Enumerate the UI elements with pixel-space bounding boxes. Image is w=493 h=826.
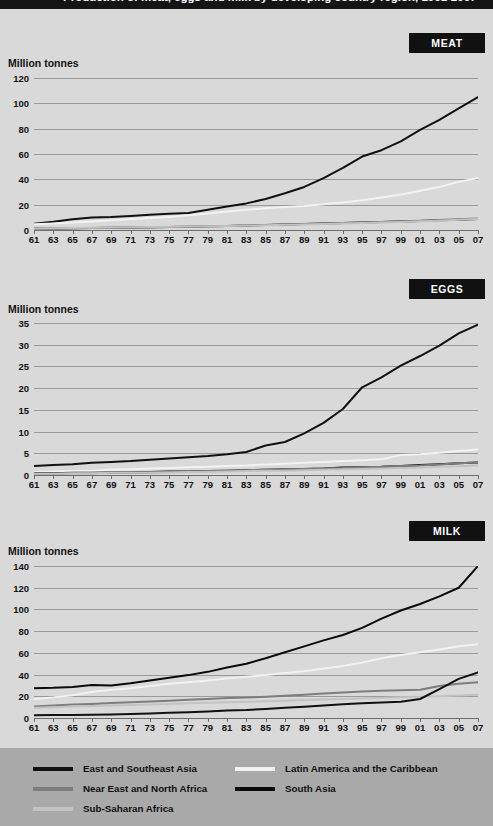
x-tick-label: 99 xyxy=(395,234,406,245)
x-tick-label: 77 xyxy=(183,722,194,733)
y-tick-label: 20 xyxy=(18,383,29,394)
x-tick-label: 81 xyxy=(222,234,233,245)
legend-swatch xyxy=(33,807,73,811)
x-tick-label: 89 xyxy=(299,722,310,733)
y-tick-label: 140 xyxy=(13,561,29,572)
legend-swatch xyxy=(33,767,73,771)
y-axis-title: Million tonnes xyxy=(8,545,79,557)
x-axis: 6163656769717375777981838587899193959799… xyxy=(34,718,478,736)
y-tick-label: 40 xyxy=(18,669,29,680)
panel-tag-meat: MEAT xyxy=(409,33,485,53)
series-line xyxy=(34,97,478,224)
x-tick-label: 77 xyxy=(183,479,194,490)
y-tick-label: 60 xyxy=(18,149,29,160)
series-line xyxy=(34,672,478,715)
legend-label: Near East and North Africa xyxy=(83,782,207,796)
x-tick-label: 87 xyxy=(280,722,291,733)
plot-inner: 0204060801001201406163656769717375777981… xyxy=(34,566,478,718)
y-tick-label: 100 xyxy=(13,604,29,615)
y-tick-label: 120 xyxy=(13,582,29,593)
x-tick-label: 99 xyxy=(395,722,406,733)
x-tick-label: 79 xyxy=(202,234,213,245)
chart-legend: East and Southeast AsiaNear East and Nor… xyxy=(0,748,493,826)
x-tick-label: 83 xyxy=(241,722,252,733)
x-tick-label: 69 xyxy=(106,722,117,733)
x-tick-label: 69 xyxy=(106,479,117,490)
x-tick-label: 81 xyxy=(222,479,233,490)
plot-inner: 0510152025303561636567697173757779818385… xyxy=(34,323,478,475)
x-tick-label: 69 xyxy=(106,234,117,245)
x-tick-label: 03 xyxy=(434,479,445,490)
figure-root: Production of meat, eggs and milk by dev… xyxy=(0,0,493,826)
x-tick-label: 01 xyxy=(415,479,426,490)
plot-area: 0204060801001206163656769717375777981838… xyxy=(34,78,478,230)
legend-label: East and Southeast Asia xyxy=(83,762,197,776)
x-tick-label: 85 xyxy=(260,234,271,245)
x-tick-label: 63 xyxy=(48,722,59,733)
y-tick-label: 20 xyxy=(18,199,29,210)
plot-area: 0204060801001201406163656769717375777981… xyxy=(34,566,478,718)
series-line xyxy=(34,325,478,466)
x-tick-label: 05 xyxy=(453,234,464,245)
x-tick-label: 91 xyxy=(318,722,329,733)
series-canvas xyxy=(34,78,478,230)
x-tick-label: 89 xyxy=(299,234,310,245)
x-tick-label: 83 xyxy=(241,234,252,245)
y-tick-label: 80 xyxy=(18,626,29,637)
x-tick-label: 97 xyxy=(376,479,387,490)
x-tick-label: 85 xyxy=(260,722,271,733)
x-tick-label: 05 xyxy=(453,722,464,733)
y-tick-label: 120 xyxy=(13,73,29,84)
x-tick-label: 61 xyxy=(29,479,40,490)
x-tick-label: 01 xyxy=(415,722,426,733)
x-tick-label: 67 xyxy=(87,234,98,245)
y-tick-label: 35 xyxy=(18,318,29,329)
x-tick-label: 73 xyxy=(145,722,156,733)
x-tick-label: 65 xyxy=(67,722,78,733)
x-tick-label: 03 xyxy=(434,722,445,733)
panel-tag-milk: MILK xyxy=(409,521,485,541)
y-axis-title: Million tonnes xyxy=(8,303,79,315)
x-tick-label: 71 xyxy=(125,479,136,490)
x-tick-label: 95 xyxy=(357,479,368,490)
x-tick-label: 63 xyxy=(48,479,59,490)
x-tick-label: 99 xyxy=(395,479,406,490)
figure-title-band: Production of meat, eggs and milk by dev… xyxy=(0,0,493,9)
y-tick-label: 5 xyxy=(24,448,29,459)
x-tick-label: 87 xyxy=(280,234,291,245)
x-tick-label: 05 xyxy=(453,479,464,490)
x-tick-label: 75 xyxy=(164,234,175,245)
panel-tag-eggs: EGGS xyxy=(409,279,485,299)
y-tick-label: 100 xyxy=(13,98,29,109)
y-tick-label: 80 xyxy=(18,123,29,134)
x-tick-label: 01 xyxy=(415,234,426,245)
x-axis: 6163656769717375777981838587899193959799… xyxy=(34,230,478,248)
x-tick-label: 93 xyxy=(338,722,349,733)
x-tick-label: 65 xyxy=(67,234,78,245)
series-canvas xyxy=(34,566,478,718)
x-tick-label: 03 xyxy=(434,234,445,245)
x-tick-label: 71 xyxy=(125,722,136,733)
x-tick-label: 83 xyxy=(241,479,252,490)
x-tick-label: 93 xyxy=(338,234,349,245)
legend-swatch xyxy=(235,767,275,771)
series-canvas xyxy=(34,323,478,475)
legend-swatch xyxy=(235,787,275,791)
x-tick-label: 73 xyxy=(145,234,156,245)
x-tick-label: 93 xyxy=(338,479,349,490)
x-tick-label: 65 xyxy=(67,479,78,490)
x-tick-label: 79 xyxy=(202,479,213,490)
y-tick-label: 40 xyxy=(18,174,29,185)
x-tick-label: 97 xyxy=(376,234,387,245)
plot-area: 0510152025303561636567697173757779818385… xyxy=(34,323,478,475)
x-tick-label: 07 xyxy=(473,722,484,733)
x-tick-label: 73 xyxy=(145,479,156,490)
x-tick-label: 91 xyxy=(318,234,329,245)
x-tick-label: 87 xyxy=(280,479,291,490)
x-tick-label: 07 xyxy=(473,234,484,245)
figure-title: Production of meat, eggs and milk by dev… xyxy=(63,0,476,4)
x-tick-label: 63 xyxy=(48,234,59,245)
x-tick-label: 79 xyxy=(202,722,213,733)
x-axis: 6163656769717375777981838587899193959799… xyxy=(34,475,478,493)
x-tick-label: 75 xyxy=(164,479,175,490)
